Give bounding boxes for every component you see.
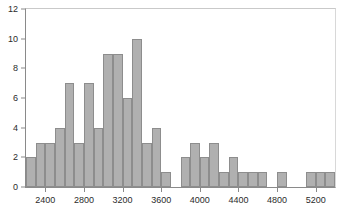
y-axis: 024681012 xyxy=(0,0,25,214)
histogram-bar xyxy=(103,54,113,188)
histogram-bar xyxy=(74,143,84,188)
histogram-bar xyxy=(248,172,258,187)
x-axis-tick-mark xyxy=(316,188,317,192)
chart-title xyxy=(0,0,341,8)
histogram-bar xyxy=(219,172,229,187)
y-axis-tick-mark xyxy=(21,157,25,158)
histogram-bar xyxy=(316,172,326,187)
histogram-bar xyxy=(306,172,316,187)
y-axis-tick-mark xyxy=(21,38,25,39)
x-axis-tick-mark xyxy=(161,188,162,192)
histogram-bar xyxy=(200,157,210,187)
y-axis-tick-mark xyxy=(21,127,25,128)
x-axis-tick-label: 4800 xyxy=(267,196,287,205)
histogram-bar xyxy=(238,172,248,187)
histogram-bar xyxy=(123,98,133,187)
x-axis-tick-label: 4400 xyxy=(228,196,248,205)
y-axis-tick-mark xyxy=(21,68,25,69)
histogram-bar xyxy=(84,83,94,187)
histogram-bar xyxy=(45,143,55,188)
y-axis-tick-label: 8 xyxy=(13,64,18,73)
histogram-bar xyxy=(142,143,152,188)
x-axis-tick-mark xyxy=(238,188,239,192)
histogram-bar xyxy=(277,172,287,187)
x-axis-tick-mark xyxy=(200,188,201,192)
y-axis-tick-label: 12 xyxy=(8,5,18,14)
x-axis-tick-label: 3200 xyxy=(113,196,133,205)
histogram-bar xyxy=(94,128,104,187)
histogram-bar xyxy=(181,157,191,187)
y-axis-tick-label: 4 xyxy=(13,123,18,132)
x-axis-tick-label: 2800 xyxy=(74,196,94,205)
y-axis-tick-mark xyxy=(21,9,25,10)
histogram-bar xyxy=(132,39,142,187)
y-axis-tick-label: 2 xyxy=(13,153,18,162)
histogram-bar xyxy=(152,128,162,187)
y-axis-tick-label: 6 xyxy=(13,94,18,103)
histogram-bar xyxy=(55,128,65,187)
histogram-bar xyxy=(26,157,36,187)
x-axis-tick-mark xyxy=(123,188,124,192)
y-axis-tick-label: 10 xyxy=(8,34,18,43)
plot-area xyxy=(25,8,336,188)
histogram-bar xyxy=(325,172,335,187)
histogram-bar xyxy=(209,143,219,188)
x-axis: 24002800320036004000440048005200 xyxy=(25,188,336,214)
y-axis-tick-mark xyxy=(21,98,25,99)
x-axis-tick-label: 4000 xyxy=(190,196,210,205)
histogram-bar xyxy=(258,172,268,187)
x-axis-tick-label: 3600 xyxy=(151,196,171,205)
bars-layer xyxy=(26,9,335,187)
histogram-bar xyxy=(229,157,239,187)
x-axis-tick-label: 2400 xyxy=(35,196,55,205)
x-axis-tick-mark xyxy=(277,188,278,192)
histogram-bar xyxy=(65,83,75,187)
histogram-chart: 024681012 240028003200360040004400480052… xyxy=(0,0,341,214)
histogram-bar xyxy=(36,143,46,188)
x-axis-tick-mark xyxy=(45,188,46,192)
histogram-bar xyxy=(161,172,171,187)
y-axis-tick-label: 0 xyxy=(13,183,18,192)
x-axis-tick-mark xyxy=(84,188,85,192)
histogram-bar xyxy=(190,143,200,188)
histogram-bar xyxy=(113,54,123,188)
x-axis-tick-label: 5200 xyxy=(306,196,326,205)
